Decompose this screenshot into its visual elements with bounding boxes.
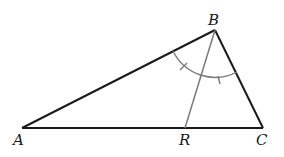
diagram-svg [0, 0, 284, 157]
bisector-br [185, 30, 215, 128]
point-label-r: R [179, 133, 190, 148]
triangle-diagram: A B C R [0, 0, 284, 157]
vertex-label-b: B [208, 13, 219, 28]
side-ab [22, 30, 215, 128]
vertex-label-a: A [13, 133, 24, 148]
vertex-label-c: C [256, 133, 267, 148]
side-bc [215, 30, 263, 128]
